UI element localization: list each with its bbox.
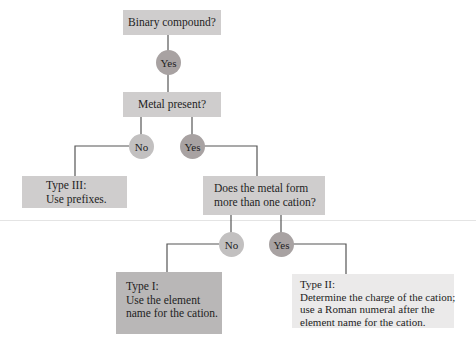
type1-rule-line2: name for the cation. [126, 307, 222, 321]
type1-title: Type I: [126, 280, 222, 294]
node-label: Binary compound? [128, 16, 216, 30]
node-type-2: Type II: Determine the charge of the cat… [292, 274, 454, 328]
decision-yes-2: Yes [180, 134, 205, 159]
edge-yes-to-type2 [293, 244, 346, 274]
type2-rule-line3: element name for the cation. [300, 316, 454, 329]
node-type-1: Type I: Use the element name for the cat… [116, 272, 222, 334]
flowchart: Binary compound? Yes Metal present? No Y… [0, 0, 476, 356]
node-label-line1: Does the metal form [214, 182, 325, 196]
decision-label: No [135, 141, 148, 153]
type2-title: Type II: [300, 278, 454, 291]
node-metal-present: Metal present? [123, 92, 221, 117]
node-binary-compound: Binary compound? [123, 10, 221, 35]
type2-rule-line1: Determine the charge of the cation; [300, 291, 454, 304]
type1-rule-line1: Use the element [126, 294, 222, 308]
decision-no-2: No [129, 134, 154, 159]
type3-title: Type III: [46, 179, 127, 193]
decision-label: Yes [160, 57, 176, 69]
type2-rule-line2: use a Roman numeral after the [300, 303, 454, 316]
edge-yes-to-multication [204, 146, 257, 176]
decision-yes-3: Yes [269, 232, 294, 257]
decision-yes-1: Yes [156, 50, 181, 75]
type3-rule: Use prefixes. [46, 193, 127, 207]
decision-no-3: No [219, 232, 244, 257]
node-label: Metal present? [138, 98, 206, 112]
decision-label: No [225, 239, 238, 251]
edge-no-to-type1 [167, 244, 219, 272]
edge-no-to-type3 [75, 146, 129, 176]
node-type-3: Type III: Use prefixes. [22, 176, 127, 208]
node-multiple-cations: Does the metal form more than one cation… [203, 176, 325, 215]
decision-label: Yes [184, 141, 200, 153]
node-label-line2: more than one cation? [214, 196, 325, 210]
decision-label: Yes [273, 239, 289, 251]
